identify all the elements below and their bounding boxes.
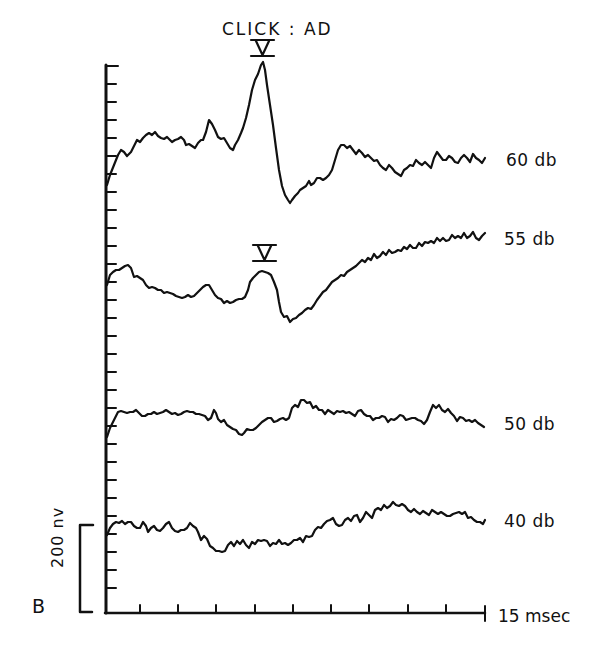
wave-v-marker-60db: [251, 40, 274, 56]
panel-label: B: [32, 595, 45, 617]
series-label-50db: 50 db: [504, 414, 555, 434]
series-label-55db: 55 db: [504, 229, 555, 249]
series-label-40db: 40 db: [504, 511, 555, 531]
trace-55db: [107, 232, 485, 322]
trace-60db: [107, 62, 485, 203]
chart-title: CLICK : AD: [222, 19, 333, 39]
wave-v-marker-55db: [253, 245, 276, 261]
trace-40db: [107, 502, 485, 552]
evoked-response-chart: [0, 0, 610, 662]
series-label-60db: 60 db: [506, 150, 557, 170]
calibration-bar: [80, 525, 93, 612]
y-axis-ticks: [106, 66, 118, 588]
x-axis-unit-label: 15 msec: [498, 606, 570, 626]
trace-50db: [107, 400, 484, 437]
calibration-label: 200 nv: [48, 507, 67, 568]
